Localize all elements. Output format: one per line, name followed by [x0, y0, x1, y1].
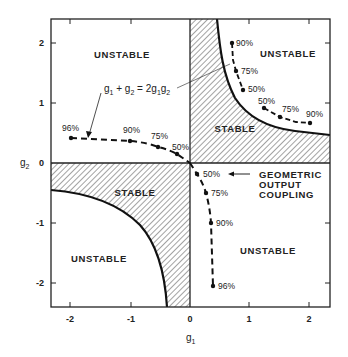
y-tick-label: -2	[36, 278, 44, 288]
y-tick-label: 2	[39, 38, 44, 48]
y-tick-label: -1	[36, 218, 44, 228]
x-tick-label: 0	[187, 314, 192, 324]
region-label-stable: STABLE	[215, 123, 256, 134]
point-label: 90%	[236, 38, 253, 48]
point-label: 50%	[258, 96, 275, 106]
point-label: 96%	[62, 123, 79, 133]
x-axis-title: g1	[186, 332, 196, 345]
x-tick-label: 1	[246, 314, 251, 324]
equation-leader-left	[89, 93, 101, 135]
x-tick-label: -2	[66, 314, 74, 324]
region-label-unstable: UNSTABLE	[94, 49, 150, 60]
region-label-unstable: UNSTABLE	[240, 245, 296, 256]
point-label: 75%	[282, 104, 299, 114]
region-label-unstable: UNSTABLE	[71, 253, 127, 264]
x-tick-label: 2	[306, 314, 311, 324]
point-label: 90%	[123, 125, 140, 135]
x-tick-label: -1	[127, 314, 135, 324]
stability-diagram: -2 -1 0 1 2 2 1 0 -1 -2 g1 g2 UNSTABLE U…	[0, 0, 348, 357]
y-tick-label: 1	[39, 98, 44, 108]
point-label: 75%	[241, 66, 258, 76]
point-label: 50%	[203, 169, 220, 179]
stable-region-lower	[51, 163, 190, 307]
point-label: 90%	[306, 109, 323, 119]
point-label: 96%	[218, 281, 235, 291]
arrow-head-icon	[86, 131, 92, 138]
point-label: 50%	[172, 142, 189, 152]
point-label: 50%	[248, 84, 265, 94]
point-label: 75%	[151, 131, 168, 141]
equation-label: g1 + g2 = 2g1g2	[104, 83, 170, 96]
annotation-coupling: COUPLING	[259, 189, 314, 200]
region-label-stable: STABLE	[115, 187, 156, 198]
point-label: 90%	[216, 218, 233, 228]
arrow-left-icon	[228, 172, 234, 177]
point-label: 75%	[211, 188, 228, 198]
region-label-unstable: UNSTABLE	[260, 48, 316, 59]
y-axis-title: g2	[20, 157, 30, 170]
y-tick-label: 0	[39, 158, 44, 168]
